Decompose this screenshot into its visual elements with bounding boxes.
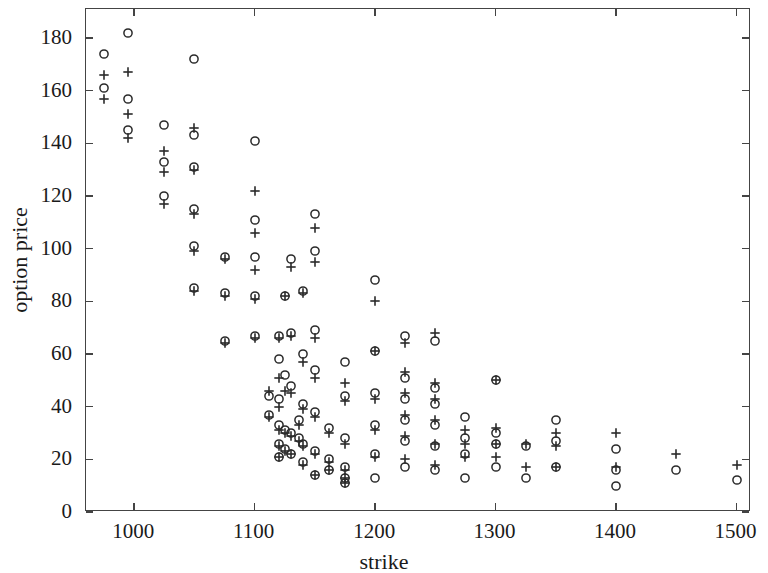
x-axis-tick-label: 1000: [112, 521, 154, 542]
x-axis-title: strike: [0, 549, 768, 573]
x-axis-tick-label: 1200: [353, 521, 395, 542]
x-axis-tick-label: 1500: [715, 521, 757, 542]
x-axis-tick-label: 1300: [474, 521, 516, 542]
y-axis-title: option price: [7, 207, 33, 313]
x-axis-tick-label: 1400: [594, 521, 636, 542]
x-axis-tick-label: 1100: [233, 521, 274, 542]
